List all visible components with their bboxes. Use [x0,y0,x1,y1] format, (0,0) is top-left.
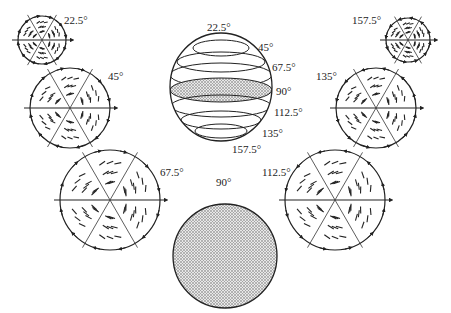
cross-section-112-5 [279,150,391,250]
sphere-label-67-5: 67.5° [272,61,296,73]
cross-section-label-67-5: 67.5° [160,166,184,178]
cross-section-135 [330,68,422,148]
cross-section-label-45: 45° [108,70,123,82]
cross-section-90: 90° [173,176,277,308]
diagram: 22.5° 45° 67.5° 90° 112.5° 135° 157.5° 9… [0,0,451,313]
cross-section-45 [24,68,116,148]
sphere-label-157-5: 157.5° [232,143,261,155]
cross-section-157-5 [380,17,436,64]
sphere-label-90: 90° [276,85,291,97]
cross-section-label-135: 135° [316,70,337,82]
cross-section-67-5 [54,150,166,250]
cross-section-22-5 [12,15,72,65]
sphere: 22.5° 45° 67.5° 90° 112.5° 135° 157.5° [170,21,303,155]
cross-section-label-157-5: 157.5° [352,14,381,26]
sphere-label-45: 45° [258,41,273,53]
cross-section-label-22-5: 22.5° [64,14,88,26]
sphere-label-112-5: 112.5° [274,106,303,118]
sphere-label-135: 135° [262,127,283,139]
cross-section-label-90: 90° [216,176,231,188]
sphere-label-22-5: 22.5° [207,21,231,33]
cross-section-label-112-5: 112.5° [262,166,291,178]
